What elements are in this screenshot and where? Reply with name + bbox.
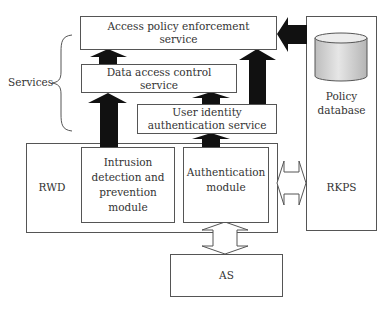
auth-module-line2: module bbox=[206, 180, 245, 195]
data-access-line2: service bbox=[140, 79, 178, 92]
rkps-label: RKPS bbox=[307, 181, 376, 194]
access-policy-line1: Access policy enforcement bbox=[107, 20, 249, 33]
policy-db-line1: Policy bbox=[307, 89, 376, 103]
arrow-up-user-to-data bbox=[192, 92, 230, 104]
auth-module-line1: Authentication bbox=[187, 165, 266, 180]
intrusion-detection-module-box: Intrusion detection and prevention modul… bbox=[81, 147, 175, 223]
as-box: AS bbox=[170, 254, 283, 297]
services-label: Services bbox=[8, 76, 52, 89]
user-identity-line1: User identity bbox=[172, 106, 242, 119]
arrow-left-rkps-to-policy bbox=[277, 17, 307, 52]
user-identity-line2: authentication service bbox=[148, 119, 267, 132]
access-policy-enforcement-service-box: Access policy enforcement service bbox=[80, 16, 277, 50]
authentication-module-box: Authentication module bbox=[183, 147, 269, 223]
arrow-up-intrusion-to-data bbox=[88, 93, 127, 147]
database-icon bbox=[315, 33, 367, 81]
data-access-line1: Data access control bbox=[107, 66, 212, 79]
access-policy-line2: service bbox=[159, 33, 197, 46]
services-brace bbox=[52, 35, 72, 131]
double-arrow-rwd-rkps bbox=[277, 161, 306, 205]
policy-db-line2: database bbox=[307, 103, 376, 117]
user-identity-authentication-service-box: User identity authentication service bbox=[137, 104, 277, 134]
data-access-control-service-box: Data access control service bbox=[81, 64, 237, 93]
arrow-up-data-to-policy bbox=[90, 49, 127, 64]
as-label: AS bbox=[219, 269, 234, 282]
rwd-label: RWD bbox=[30, 181, 74, 194]
intrusion-line3: prevention bbox=[99, 185, 157, 200]
intrusion-line4: module bbox=[108, 200, 147, 215]
policy-database-label: Policy database bbox=[307, 89, 376, 117]
arrow-up-user-to-policy bbox=[239, 49, 276, 104]
intrusion-line1: Intrusion bbox=[104, 155, 153, 170]
intrusion-line2: detection and bbox=[92, 170, 165, 185]
